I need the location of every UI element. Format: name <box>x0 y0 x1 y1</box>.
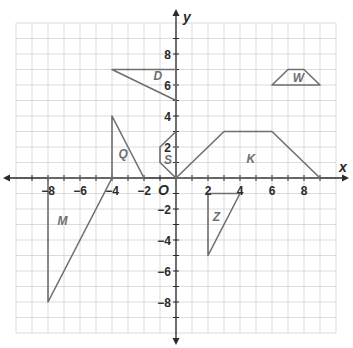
y-tick-label: −8 <box>157 296 171 310</box>
shape-label-z: Z <box>212 210 221 224</box>
origin-label: O <box>158 182 169 198</box>
y-axis-label: y <box>182 9 192 25</box>
x-axis-label: x <box>338 159 348 175</box>
x-tick-label: 6 <box>269 184 276 198</box>
y-axis-up-arrow-icon <box>173 9 180 16</box>
x-tick-label: −4 <box>105 184 119 198</box>
y-tick-label: 8 <box>164 48 171 62</box>
shape-label-d: D <box>154 69 163 83</box>
x-tick-label: −8 <box>41 184 55 198</box>
x-axis-right-arrow-icon <box>342 175 349 182</box>
y-tick-label: 6 <box>164 79 171 93</box>
shape-label-q: Q <box>118 147 128 161</box>
y-tick-label: 4 <box>164 110 171 124</box>
y-tick-label: −6 <box>157 265 171 279</box>
y-axis-down-arrow-icon <box>173 338 180 345</box>
y-tick-label: −4 <box>157 234 171 248</box>
x-tick-label: −2 <box>137 184 151 198</box>
shape-label-w: W <box>293 71 306 85</box>
x-tick-label: 8 <box>301 184 308 198</box>
shapes <box>48 70 320 303</box>
shape-label-s: S <box>164 153 172 167</box>
x-axis-left-arrow-icon <box>3 175 10 182</box>
y-tick-label: −2 <box>157 203 171 217</box>
shape-label-k: K <box>246 152 256 166</box>
x-tick-label: 4 <box>237 184 244 198</box>
coordinate-plane: −8−6−4−224688642−2−4−6−8OxyDWQSKMZ <box>0 0 353 348</box>
x-tick-label: 2 <box>205 184 212 198</box>
shape-label-m: M <box>58 214 69 228</box>
x-tick-label: −6 <box>73 184 87 198</box>
